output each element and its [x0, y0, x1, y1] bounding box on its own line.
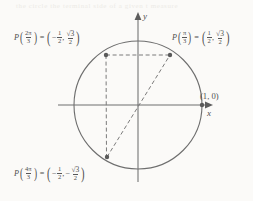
arg-fraction-4pi3: 4π 3	[24, 166, 32, 181]
point-1-0-marker	[200, 103, 204, 107]
p-function-2pi3: P	[14, 34, 19, 42]
point-4pi-3-marker	[105, 155, 109, 159]
arg-fraction-2pi3: 2π 3	[24, 30, 32, 45]
left-paren-coord-pi3: (	[202, 33, 206, 44]
x-sign-2pi3: −	[52, 34, 57, 42]
left-paren-arg-pi3: (	[178, 33, 181, 42]
left-paren-arg-2pi3: (	[20, 33, 23, 42]
right-paren-coord-4pi3: )	[81, 169, 85, 180]
left-paren-coord-4pi3: (	[47, 169, 51, 180]
p-function-4pi3: P	[14, 170, 19, 178]
p-function-pi3: P	[172, 34, 177, 42]
x-fraction-4pi3: 1 2	[57, 166, 61, 181]
equals-4pi3: =	[40, 170, 45, 178]
y-sign-4pi3: −	[65, 170, 70, 178]
right-paren-arg-pi3: )	[188, 33, 191, 42]
comma-2pi3: ,	[62, 34, 64, 42]
arg-fraction-pi3: π 3	[182, 30, 187, 45]
left-paren-arg-4pi3: (	[20, 169, 23, 178]
y-fraction-2pi3: √3 2	[66, 30, 75, 46]
x-sign-4pi3: −	[52, 170, 57, 178]
right-paren-coord-pi3: )	[226, 33, 230, 44]
y-fraction-pi3: √3 2	[216, 30, 225, 46]
label-p-2pi-3: P ( 2π 3 ) = ( − 1 2 , √3 2 )	[14, 30, 81, 46]
y-fraction-4pi3: √3 2	[71, 166, 80, 182]
equals-pi3: =	[194, 34, 199, 42]
x-axis-label: x	[207, 108, 211, 118]
point-pi-3-marker	[168, 53, 172, 57]
dashed-vertical-chord	[106, 55, 107, 157]
x-fraction-2pi3: 1 2	[57, 30, 61, 45]
unit-circle-figure: the circle the terminal side of a given …	[0, 0, 253, 201]
comma-4pi3: ,	[62, 170, 64, 178]
point-1-0-label: (1, 0)	[200, 91, 219, 101]
equals-2pi3: =	[40, 34, 45, 42]
label-p-4pi-3: P ( 4π 3 ) = ( − 1 2 , − √3 2 )	[14, 166, 86, 182]
right-paren-coord-2pi3: )	[76, 33, 80, 44]
right-paren-arg-4pi3: )	[34, 169, 37, 178]
point-2pi-3-marker	[104, 53, 108, 57]
y-axis-label: y	[143, 11, 147, 21]
y-axis-arrowhead	[135, 12, 142, 20]
right-paren-arg-2pi3: )	[34, 33, 37, 42]
label-p-pi-3: P ( π 3 ) = ( 1 2 , √3 2 )	[172, 30, 231, 46]
x-fraction-pi3: 1 2	[207, 30, 211, 45]
left-paren-coord-2pi3: (	[47, 33, 51, 44]
comma-pi3: ,	[212, 34, 214, 42]
